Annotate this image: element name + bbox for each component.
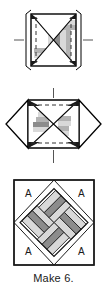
corner-label-top-left: A xyxy=(25,188,32,199)
flap-left xyxy=(6,100,28,148)
inner-strip-l3 xyxy=(33,122,49,127)
corner-label-top-right: A xyxy=(78,188,85,199)
flap-edge-tr xyxy=(76,10,81,14)
step-1-strip-pieced-square xyxy=(0,0,107,85)
inner-strip-r2 xyxy=(58,121,71,126)
corner-label-bottom-right: A xyxy=(78,246,85,257)
step-2-diagram xyxy=(0,85,107,175)
instruction-sheet: A A A A Make 6. xyxy=(0,0,107,295)
step-1-diagram xyxy=(0,0,107,85)
flap-edge-tl xyxy=(26,10,31,14)
flap-right xyxy=(79,100,101,148)
flap-edge-br xyxy=(76,66,81,70)
corner-label-bottom-left: A xyxy=(25,246,32,257)
flap-edge-bl xyxy=(26,66,31,70)
step-2-folded-unit xyxy=(0,85,107,175)
make-caption: Make 6. xyxy=(0,272,107,284)
